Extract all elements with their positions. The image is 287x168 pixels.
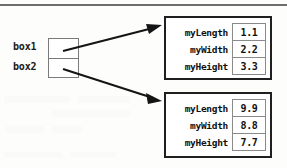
field-name: myLength	[172, 100, 233, 117]
field-value: 9.9	[233, 100, 266, 117]
field-row: myHeight 3.3	[172, 58, 266, 75]
reference-cell-box2	[49, 59, 78, 79]
object-reference-diagram: box1 box2 myLength 1.1 myWidth 2.2	[0, 0, 287, 168]
scan-artifact	[52, 110, 130, 117]
reference-label-box2: box2	[13, 61, 36, 72]
scan-artifact	[78, 96, 130, 103]
field-row: myLength 1.1	[172, 24, 266, 41]
field-value: 8.8	[233, 117, 266, 134]
scan-artifact	[6, 126, 44, 133]
field-table-2: myLength 9.9 myWidth 8.8 myHeight 7.7	[172, 99, 266, 151]
field-value: 1.1	[233, 24, 266, 41]
field-value: 2.2	[233, 41, 266, 58]
field-name: myLength	[172, 24, 233, 41]
object-box-2: myLength 9.9 myWidth 8.8 myHeight 7.7	[164, 92, 272, 158]
field-table-1: myLength 1.1 myWidth 2.2 myHeight 3.3	[172, 23, 266, 75]
field-name: myWidth	[172, 117, 233, 134]
field-row: myLength 9.9	[172, 100, 266, 117]
field-value: 7.7	[233, 134, 266, 151]
scan-artifact	[52, 126, 82, 133]
scan-artifact	[4, 152, 62, 158]
scan-artifact	[70, 152, 116, 158]
field-value: 3.3	[233, 58, 266, 75]
field-row: myHeight 7.7	[172, 134, 266, 151]
reference-label-box1: box1	[13, 41, 36, 52]
field-row: myWidth 2.2	[172, 41, 266, 58]
top-divider-rule	[0, 4, 287, 6]
field-name: myWidth	[172, 41, 233, 58]
field-name: myHeight	[172, 134, 233, 151]
field-row: myWidth 8.8	[172, 117, 266, 134]
reference-cell-box1	[49, 39, 78, 59]
field-name: myHeight	[172, 58, 233, 75]
reference-cell-group	[48, 38, 79, 78]
object-box-1: myLength 1.1 myWidth 2.2 myHeight 3.3	[164, 16, 272, 80]
scan-artifact	[4, 96, 70, 103]
